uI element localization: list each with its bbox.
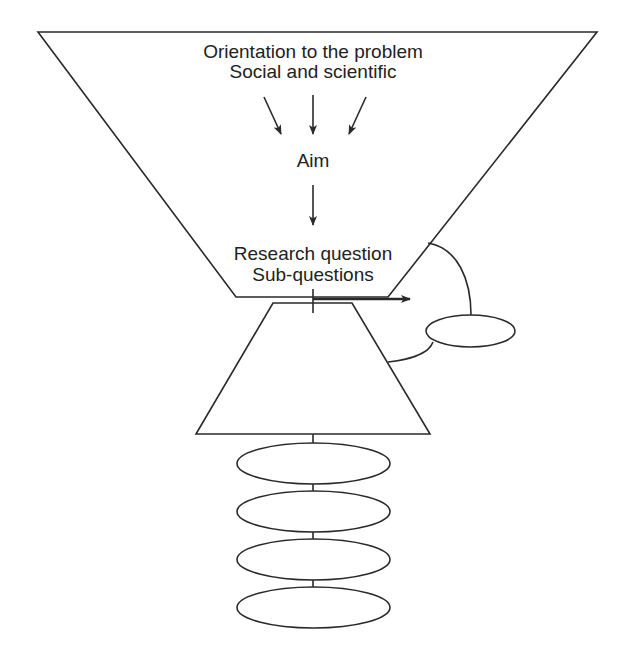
upper-connector-arc	[428, 243, 471, 315]
research-funnel-diagram: Orientation to the problem Social and sc…	[0, 0, 619, 666]
stacked-ellipse-1	[237, 443, 390, 484]
stacked-ellipse-3	[237, 539, 390, 580]
stacked-ellipse-4	[237, 587, 390, 628]
social-scientific-label: Social and scientific	[230, 61, 397, 82]
side-ellipse	[426, 315, 515, 347]
stacked-ellipse-2	[237, 491, 390, 532]
lower-connector-arc	[388, 342, 433, 362]
aim-label: Aim	[297, 150, 330, 171]
research-question-label: Research question	[234, 243, 392, 264]
lower-trapezoid	[196, 303, 430, 434]
sub-questions-label: Sub-questions	[252, 264, 373, 285]
orientation-label: Orientation to the problem	[203, 41, 423, 62]
